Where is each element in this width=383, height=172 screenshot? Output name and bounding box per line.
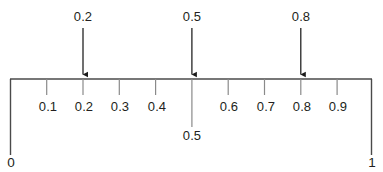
tick-label-0.1: 0.1: [39, 99, 57, 114]
below-axis-label-0.5: 0.5: [183, 128, 201, 143]
tick-label-0.3: 0.3: [111, 99, 129, 114]
endpoint-label-one: 1: [368, 155, 376, 170]
tick-label-0.2: 0.2: [75, 99, 93, 114]
tick-label-0.6: 0.6: [220, 99, 238, 114]
tick-label-0.4: 0.4: [148, 99, 166, 114]
callout-label-0.2: 0.2: [74, 9, 92, 24]
endpoint-label-zero: 0: [7, 155, 15, 170]
callout-label-0.5: 0.5: [183, 9, 201, 24]
callout-arrow-group: [83, 28, 301, 75]
tick-label-0.7: 0.7: [257, 99, 275, 114]
number-line-svg: [0, 0, 383, 172]
tick-label-0.9: 0.9: [329, 99, 347, 114]
callout-label-0.8: 0.8: [292, 9, 310, 24]
number-line-figure: 0.2 0.5 0.8 0.1 0.2 0.3 0.4 0.6 0.7 0.8 …: [0, 0, 383, 172]
tick-label-0.8: 0.8: [293, 99, 311, 114]
